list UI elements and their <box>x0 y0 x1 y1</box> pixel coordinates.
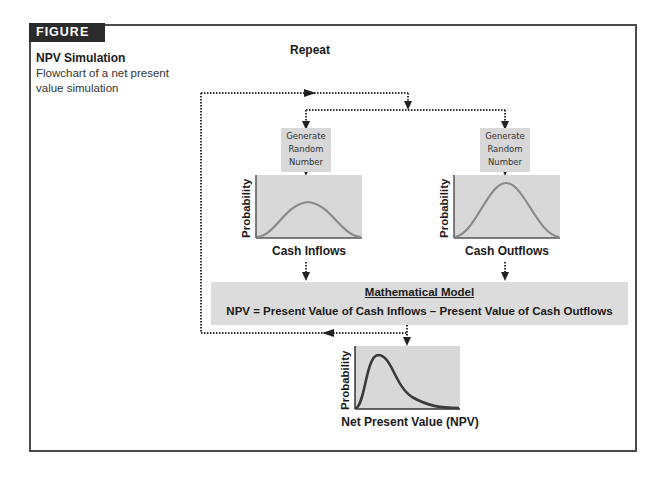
cash-inflows-label: Cash Inflows <box>256 244 362 258</box>
npv-y-label: Probability <box>339 350 351 410</box>
inflows-y-label: Probability <box>240 178 252 238</box>
repeat-label: Repeat <box>290 43 330 57</box>
cash-outflows-chart <box>454 175 560 238</box>
mathematical-model-box: Mathematical Model NPV = Present Value o… <box>211 282 628 325</box>
model-title: Mathematical Model <box>211 286 628 298</box>
generate-random-number-box-inflows: Generate Random Number <box>281 128 331 172</box>
npv-label: Net Present Value (NPV) <box>330 415 490 429</box>
cash-outflows-label: Cash Outflows <box>448 244 566 258</box>
arrow-left-icon <box>322 329 334 337</box>
generate-random-number-box-outflows: Generate Random Number <box>480 128 530 172</box>
outflows-y-label: Probability <box>438 178 450 238</box>
cash-inflows-chart <box>256 175 362 238</box>
arrow-right-icon <box>304 89 316 97</box>
flowchart-connectors: Probability Probability Probability <box>0 0 666 484</box>
model-equation: NPV = Present Value of Cash Inflows – Pr… <box>211 305 628 317</box>
npv-chart <box>355 346 460 409</box>
